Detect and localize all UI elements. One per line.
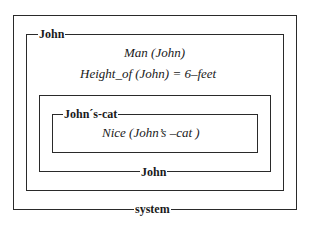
system-label: system xyxy=(134,203,171,215)
statement-nice-johns-cat: Nice (John’s –cat ) xyxy=(102,126,200,140)
statement-man-john: Man (John) xyxy=(124,46,185,60)
statement-height-of-john: Height_of (John) = 6–feet xyxy=(80,67,216,81)
john-context-label: John xyxy=(38,28,65,40)
johns-cat-label: John´s-cat xyxy=(63,108,118,120)
john-inner-label: John xyxy=(140,166,167,178)
